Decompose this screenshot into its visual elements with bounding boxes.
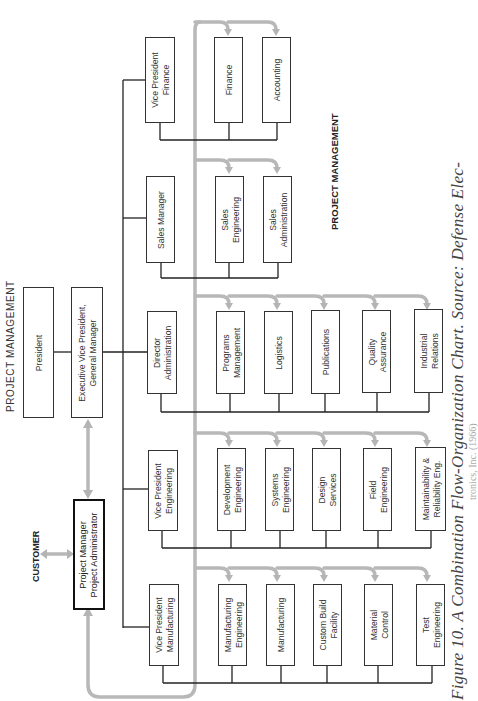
dept-manufacturing: Manufacturing [266,584,295,666]
sales-manager-box: Sales Manager [146,176,175,263]
vp-finance-label: Vice President Finance [150,52,171,107]
exec-vp-box: Executive Vice President, General Manage… [71,287,103,418]
dept-sales-engineering-label: Sales Engineering [219,197,240,243]
director-administration-box: Director Administration [147,311,177,394]
dept-maintainability-reliability-label: Maintainability & Reliability Eng. [420,458,441,521]
vp-manufacturing-label: Vice President Manufacturing [154,597,175,652]
project-manager-box: Project Manager Project Administrator [73,499,105,610]
dept-finance: Finance [214,37,243,123]
vp-engineering-label: Vice President Engineering [153,463,174,518]
dept-design-services: Design Services [312,448,341,531]
dept-development-engineering-label: Development Engineering [221,464,242,515]
dept-accounting: Accounting [262,37,291,123]
dept-systems-engineering: Systems Engineering [265,448,294,531]
dept-publications-label: Publications [320,329,331,375]
figure-caption: Figure 10. A Combination Flow-Organizati… [448,162,468,700]
dept-field-engineering-label: Field Engineering [367,467,388,513]
project-manager-label: Project Manager Project Administrator [78,512,100,597]
dept-custom-build-facility: Custom Build Facility [313,584,342,666]
dept-finance-label: Finance [223,65,234,96]
dept-logistics: Logistics [264,311,293,394]
sales-manager-label: Sales Manager [155,191,166,249]
dept-publications: Publications [311,310,340,394]
dept-accounting-label: Accounting [271,59,282,102]
dept-custom-build-facility-label: Custom Build Facility [317,599,338,650]
dept-development-engineering: Development Engineering [217,448,246,531]
dept-quality-assurance-label: Quality Assurance [366,331,387,372]
dept-industrial-relations: Industrial Relations [414,309,443,393]
dept-logistics-label: Logistics [273,336,284,369]
dept-programs-management-label: Programs Management [220,327,241,377]
dept-manufacturing-engineering-label: Manufacturing Engineering [222,598,243,652]
vp-finance-box: Vice President Finance [145,37,175,123]
project-management-title-right: PROJECT MANAGEMENT [329,113,340,230]
dept-systems-engineering-label: Systems Engineering [269,467,290,513]
dept-manufacturing-engineering: Manufacturing Engineering [218,584,247,666]
dept-sales-engineering: Sales Engineering [215,176,244,263]
dept-test-engineering-label: Test Engineering [420,602,441,648]
dept-test-engineering: Test Engineering [416,584,445,666]
president-label: President [33,334,44,370]
dept-design-services-label: Design Services [316,473,337,506]
president-box: President [23,287,54,418]
exec-vp-label: Executive Vice President, General Manage… [77,304,98,401]
dept-sales-administration-label: Sales Administration [267,192,288,246]
dept-maintainability-reliability: Maintainability & Reliability Eng. [415,447,446,531]
customer-label: CUSTOMER [31,531,41,582]
dept-sales-administration: Sales Administration [263,176,292,263]
dept-quality-assurance: Quality Assurance [362,310,391,393]
dept-manufacturing-label: Manufacturing [275,598,286,652]
dept-field-engineering: Field Engineering [363,448,392,531]
dept-material-control-label: Material Control [368,610,389,641]
dept-material-control: Material Control [364,584,393,666]
dept-programs-management: Programs Management [216,311,245,394]
vp-engineering-box: Vice President Engineering [148,450,178,531]
dept-industrial-relations-label: Industrial Relations [418,333,439,369]
figure-caption-line2: tronics, Inc. (1966) [467,423,478,500]
director-administration-label: Director Administration [152,325,173,379]
project-management-title-left: PROJECT MANAGEMENT [5,280,16,412]
vp-manufacturing-box: Vice President Manufacturing [149,584,179,666]
